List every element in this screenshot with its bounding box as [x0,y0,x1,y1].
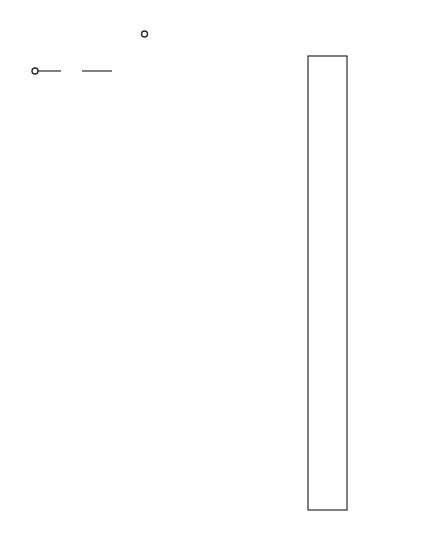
decoder-logic-block [308,56,347,510]
flash-adc-circuit-diagram [0,0,430,542]
e-input-terminal[interactable] [32,68,38,74]
ein-terminal[interactable] [142,31,148,37]
